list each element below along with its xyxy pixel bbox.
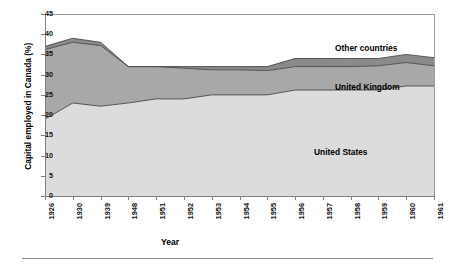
y-tick	[41, 176, 45, 177]
series-label-united-states: United States	[314, 148, 368, 156]
x-tick	[406, 196, 407, 200]
plot-right-border	[434, 14, 435, 197]
footer-divider	[22, 258, 433, 259]
y-axis-title: Capital employed in Canada (%)	[24, 16, 32, 196]
x-tick	[295, 196, 296, 200]
y-tick-label: 0	[49, 192, 53, 199]
series-label-united-kingdom: United Kingdom	[335, 83, 400, 91]
x-tick-label: 1961	[437, 203, 444, 219]
chart-figure: 051015202530354045 192619301939194819511…	[0, 0, 455, 269]
y-tick-label: 35	[45, 50, 53, 57]
x-tick-label: 1948	[131, 203, 138, 219]
x-tick	[156, 196, 157, 200]
y-tick-label: 25	[45, 91, 53, 98]
x-tick	[128, 196, 129, 200]
stacked-area-svg	[45, 14, 434, 196]
x-tick	[184, 196, 185, 200]
x-tick-label: 1930	[76, 203, 83, 219]
x-tick-label: 1959	[381, 203, 388, 219]
y-axis-line	[45, 14, 46, 197]
x-tick	[212, 196, 213, 200]
y-tick-label: 40	[45, 30, 53, 37]
plot-top-border	[45, 14, 435, 15]
x-tick-label: 1926	[48, 203, 55, 219]
x-tick	[240, 196, 241, 200]
series-label-other-countries: Other countries	[335, 44, 397, 52]
y-tick-label: 30	[45, 71, 53, 78]
x-tick-label: 1953	[215, 203, 222, 219]
y-tick-label: 45	[45, 10, 53, 17]
x-tick-label: 1955	[270, 203, 277, 219]
x-tick	[73, 196, 74, 200]
x-tick	[351, 196, 352, 200]
x-tick-label: 1956	[298, 203, 305, 219]
x-tick	[378, 196, 379, 200]
plot-wrapper: 051015202530354045 192619301939194819511…	[0, 0, 455, 269]
x-tick	[323, 196, 324, 200]
plot-area	[45, 14, 434, 196]
x-tick-label: 1960	[409, 203, 416, 219]
x-tick-label: 1958	[354, 203, 361, 219]
x-tick	[434, 196, 435, 200]
y-tick-label: 20	[45, 111, 53, 118]
y-tick-label: 10	[45, 152, 53, 159]
y-tick-label: 15	[45, 131, 53, 138]
x-tick-label: 1957	[326, 203, 333, 219]
x-tick-label: 1952	[187, 203, 194, 219]
x-tick-label: 1954	[243, 203, 250, 219]
x-tick-label: 1951	[159, 203, 166, 219]
y-tick-label: 5	[49, 172, 53, 179]
x-tick	[45, 196, 46, 200]
x-axis-title: Year	[45, 238, 295, 247]
x-tick-label: 1939	[104, 203, 111, 219]
x-tick	[101, 196, 102, 200]
x-tick	[267, 196, 268, 200]
